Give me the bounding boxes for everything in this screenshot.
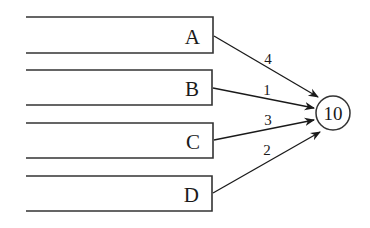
output-node: 10: [316, 96, 350, 130]
input-box-b: B: [26, 70, 212, 105]
weight-d: 2: [263, 142, 271, 158]
input-box-a: A: [26, 17, 213, 53]
input-label-d: D: [184, 183, 199, 207]
weight-b: 1: [263, 82, 271, 98]
output-node-label: 10: [324, 103, 343, 124]
diagram-canvas: A B C D 4 1 3 2 10: [0, 0, 370, 228]
input-label-b: B: [185, 77, 199, 101]
weight-c: 3: [264, 112, 272, 128]
input-label-a: A: [185, 25, 201, 49]
weight-a: 4: [264, 51, 272, 67]
input-box-d: D: [26, 176, 212, 211]
input-label-c: C: [186, 130, 200, 154]
input-box-c: C: [26, 123, 213, 158]
